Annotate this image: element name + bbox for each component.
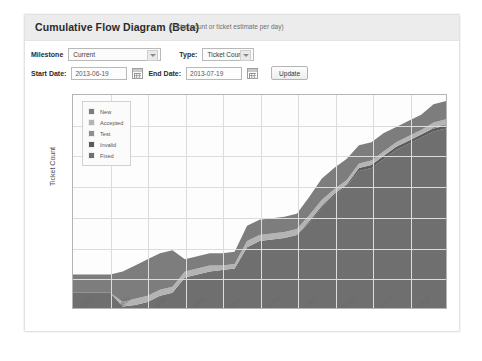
legend-swatch-icon bbox=[88, 119, 95, 126]
legend-swatch-icon bbox=[88, 141, 95, 148]
calendar-icon[interactable] bbox=[247, 68, 258, 79]
type-selected-value: Ticket Count bbox=[207, 51, 243, 58]
filter-row-dates: Start Date: 2013-06-19 End Date: 2013-07… bbox=[31, 66, 308, 80]
start-date-label: Start Date: bbox=[31, 70, 66, 77]
legend-label: Accepted bbox=[100, 120, 123, 126]
start-date-value: 2013-06-19 bbox=[75, 70, 108, 77]
gridline-horizontal bbox=[73, 279, 446, 280]
legend-label: Test bbox=[100, 131, 110, 137]
end-date-value: 2013-07-19 bbox=[190, 70, 223, 77]
gridline-vertical bbox=[148, 95, 149, 308]
chevron-down-icon[interactable] bbox=[147, 50, 158, 61]
calendar-icon[interactable] bbox=[132, 68, 143, 79]
plot-area: NewAcceptedTestInvalidFixed 020406080100… bbox=[72, 94, 447, 309]
end-date-label: End Date: bbox=[148, 70, 181, 77]
start-date-input[interactable]: 2013-06-19 bbox=[71, 67, 127, 80]
gridline-vertical bbox=[411, 95, 412, 308]
legend-item-fixed[interactable]: Fixed bbox=[88, 150, 123, 161]
legend-label: Invalid bbox=[100, 142, 116, 148]
gridline-vertical bbox=[298, 95, 299, 308]
milestone-label: Milestone bbox=[31, 51, 63, 58]
legend-swatch-icon bbox=[88, 108, 95, 115]
legend-swatch-icon bbox=[88, 130, 95, 137]
legend-swatch-icon bbox=[88, 152, 95, 159]
filter-row-milestone-type: Milestone Current Type: Ticket Count bbox=[31, 47, 254, 61]
milestone-select[interactable]: Current bbox=[68, 48, 161, 61]
legend-item-test[interactable]: Test bbox=[88, 128, 123, 139]
chart-legend: NewAcceptedTestInvalidFixed bbox=[82, 101, 131, 166]
gridline-horizontal bbox=[73, 249, 446, 250]
gridline-vertical bbox=[223, 95, 224, 308]
chart-container: Ticket Count NewAcceptedTestInvalidFixed… bbox=[29, 85, 455, 329]
gridline-vertical bbox=[336, 95, 337, 308]
chevron-down-icon[interactable] bbox=[240, 50, 251, 61]
legend-label: New bbox=[100, 109, 111, 115]
gridline-vertical bbox=[186, 95, 187, 308]
update-button[interactable]: Update bbox=[271, 66, 308, 80]
type-label: Type: bbox=[179, 51, 197, 58]
page-root: Cumulative Flow Diagram (Beta) (Ticket c… bbox=[0, 0, 482, 361]
milestone-selected-value: Current bbox=[73, 51, 95, 58]
end-date-input[interactable]: 2013-07-19 bbox=[186, 67, 242, 80]
legend-label: Fixed bbox=[100, 153, 114, 159]
page-subtitle: (Ticket count or ticket estimate per day… bbox=[170, 23, 284, 30]
y-axis-label: Ticket Count bbox=[49, 122, 56, 212]
legend-item-new[interactable]: New bbox=[88, 106, 123, 117]
type-select[interactable]: Ticket Count bbox=[202, 48, 254, 61]
cumulative-flow-diagram-card: Cumulative Flow Diagram (Beta) (Ticket c… bbox=[24, 14, 460, 332]
gridline-horizontal bbox=[73, 187, 446, 188]
gridline-vertical bbox=[373, 95, 374, 308]
gridline-horizontal bbox=[73, 218, 446, 219]
legend-item-invalid[interactable]: Invalid bbox=[88, 139, 123, 150]
gridline-vertical bbox=[261, 95, 262, 308]
legend-item-accepted[interactable]: Accepted bbox=[88, 117, 123, 128]
